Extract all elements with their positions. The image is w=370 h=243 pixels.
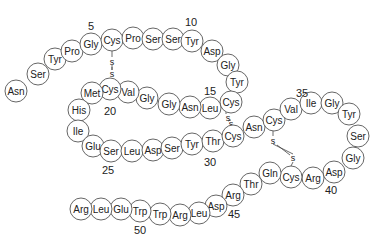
residue-label: Ile <box>73 126 84 137</box>
disulfide-bond: ss <box>271 131 296 166</box>
residue-10: Tyr <box>181 30 203 52</box>
residue-label: Thr <box>244 179 260 190</box>
residue-1: Asn <box>5 80 27 102</box>
position-number: 25 <box>102 164 114 176</box>
residue-7: Pro <box>122 27 144 49</box>
residue-15: Leu <box>199 97 221 119</box>
residue-label: Asp <box>144 145 162 156</box>
residue-38: Ser <box>347 125 369 147</box>
residue-label: Cys <box>265 115 282 126</box>
residue-28: Ser <box>161 137 183 159</box>
residue-29: Tyr <box>181 133 203 155</box>
residue-label: Arg <box>225 190 241 201</box>
sulfur-label: s <box>110 69 115 79</box>
residue-label: Glu <box>113 204 129 215</box>
position-number: 50 <box>134 224 146 236</box>
residue-label: Arg <box>73 204 89 215</box>
residue-label: Gly <box>221 60 236 71</box>
residue-label: Ser <box>165 34 181 45</box>
residue-32: Asn <box>243 116 265 138</box>
residue-label: Pro <box>64 46 80 57</box>
residue-27: Asp <box>142 139 164 161</box>
residue-label: Ser <box>350 131 366 142</box>
residue-label: Ser <box>164 143 180 154</box>
residue-label: Ser <box>30 69 46 80</box>
residue-22: His <box>68 99 90 121</box>
residue-chain: AsnSerTyrProGlyCysProSerSerTyrAspGlyTyrC… <box>5 27 369 226</box>
residue-label: Gly <box>162 99 177 110</box>
residue-label: Asn <box>7 86 24 97</box>
position-number: 10 <box>185 16 197 28</box>
residue-17: Gly <box>158 93 180 115</box>
residue-39: Gly <box>342 147 364 169</box>
residue-label: Trp <box>153 209 168 220</box>
residue-label: Ile <box>306 98 317 109</box>
residue-2: Ser <box>27 63 49 85</box>
residue-label: Cys <box>282 172 299 183</box>
residue-label: Met <box>84 88 101 99</box>
residue-label: Glu <box>85 141 101 152</box>
residue-label: Leu <box>202 103 219 114</box>
residue-label: Tyr <box>185 36 200 47</box>
residue-label: Leu <box>191 208 208 219</box>
residue-label: Pro <box>125 33 141 44</box>
residue-label: Gly <box>140 93 155 104</box>
residue-label: Gly <box>325 98 340 109</box>
position-number: 5 <box>88 20 94 32</box>
residue-34: Val <box>280 98 302 120</box>
residue-16: Asn <box>179 96 201 118</box>
peptide-diagram: ssssss AsnSerTyrProGlyCysProSerSerTyrAsp… <box>0 0 370 243</box>
residue-label: Cys <box>103 35 120 46</box>
sulfur-label: s <box>291 153 296 163</box>
residue-label: Cys <box>101 84 118 95</box>
residue-label: Thr <box>206 136 222 147</box>
residue-label: Asn <box>245 122 262 133</box>
residue-52: Leu <box>90 198 112 220</box>
residue-26: Leu <box>121 140 143 162</box>
position-number: 15 <box>204 85 216 97</box>
position-number: 20 <box>104 105 116 117</box>
residue-label: Ser <box>103 146 119 157</box>
residue-37: Tyr <box>338 103 360 125</box>
residue-label: Trp <box>133 206 148 217</box>
residue-label: Cys <box>224 131 241 142</box>
residue-40: Asp <box>323 161 345 183</box>
residue-51: Glu <box>110 198 132 220</box>
sulfur-label: s <box>271 136 276 146</box>
residue-5: Gly <box>80 33 102 55</box>
residue-label: Tyr <box>230 77 245 88</box>
residue-label: Gly <box>84 39 99 50</box>
residue-label: Leu <box>93 204 110 215</box>
residue-31: Cys <box>222 125 244 147</box>
position-number: 45 <box>228 208 240 220</box>
residue-43: Gln <box>259 162 281 184</box>
residue-49: Trp <box>149 203 171 225</box>
residue-label: Cys <box>222 97 239 108</box>
residue-label: Tyr <box>48 54 63 65</box>
residue-label: Asp <box>325 167 343 178</box>
residue-8: Ser <box>142 28 164 50</box>
residue-14: Cys <box>220 91 242 113</box>
residue-label: Arg <box>305 173 321 184</box>
residue-label: Val <box>284 104 298 115</box>
residue-25: Ser <box>100 140 122 162</box>
residue-48: Arg <box>169 204 191 226</box>
residue-13: Tyr <box>226 71 248 93</box>
residue-label: His <box>72 105 86 116</box>
residue-label: Leu <box>124 146 141 157</box>
position-number: 35 <box>296 87 308 99</box>
residue-label: Tyr <box>185 139 200 150</box>
residue-label: Asp <box>203 46 221 57</box>
residue-47: Leu <box>188 202 210 224</box>
position-number: 40 <box>325 184 337 196</box>
residue-label: Arg <box>172 210 188 221</box>
residue-30: Thr <box>202 130 224 152</box>
residue-label: Asn <box>181 102 198 113</box>
residue-6: Cys <box>101 29 123 51</box>
residue-label: Tyr <box>342 109 357 120</box>
position-number: 30 <box>204 156 216 168</box>
residue-41: Arg <box>302 167 324 189</box>
residue-label: Val <box>121 87 135 98</box>
residue-9: Ser <box>162 28 184 50</box>
residue-50: Trp <box>129 200 151 222</box>
